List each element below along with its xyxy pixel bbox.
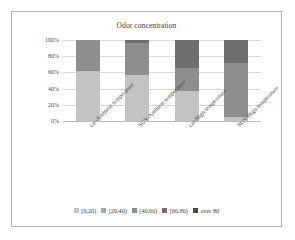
legend-label: [20,40): [109, 207, 127, 214]
y-axis-tick-label: 80%: [48, 53, 59, 59]
bar-segment[interactable]: [125, 43, 149, 75]
legend-item[interactable]: [0,20): [74, 207, 96, 214]
stacked-bar[interactable]: [125, 40, 149, 121]
x-axis-category-label: car-High temperature: [187, 124, 191, 128]
bar-segment[interactable]: [76, 40, 100, 71]
legend-label: over 80: [200, 207, 219, 214]
legend-swatch-icon: [162, 208, 167, 213]
legend-item[interactable]: over 80: [193, 207, 219, 214]
legend-label: [40,60): [139, 207, 157, 214]
legend-label: [0,20): [81, 207, 96, 214]
x-axis-category-labels: car-Ambient temperatureSUV-Ambient tempe…: [63, 122, 261, 192]
bar-series-layer: [63, 40, 261, 121]
x-axis-category-label: car-Ambient temperature: [88, 124, 92, 128]
plot-area: 0%20%40%60%80%100%: [63, 40, 261, 121]
chart-legend: [0,20)[20,40)[40,60)[60,80)over 80: [12, 207, 281, 214]
legend-swatch-icon: [74, 208, 79, 213]
legend-swatch-icon: [193, 208, 198, 213]
bar-segment[interactable]: [76, 71, 100, 121]
y-axis-tick-label: 100%: [45, 37, 59, 43]
legend-label: [60,80): [170, 207, 188, 214]
stacked-bar[interactable]: [175, 40, 199, 121]
legend-swatch-icon: [101, 208, 106, 213]
y-axis-tick-label: 20%: [48, 102, 59, 108]
bar-segment[interactable]: [175, 40, 199, 68]
chart-title: Odor concentration: [12, 21, 281, 30]
x-axis-category-label: SUV-High temperature: [236, 124, 240, 128]
y-axis-tick-label: 60%: [48, 69, 59, 75]
legend-item[interactable]: [40,60): [132, 207, 158, 214]
y-axis-tick-label: 0%: [51, 118, 59, 124]
legend-item[interactable]: [60,80): [162, 207, 188, 214]
bar-segment[interactable]: [224, 63, 248, 117]
stacked-bar[interactable]: [76, 40, 100, 121]
legend-item[interactable]: [20,40): [101, 207, 127, 214]
y-axis-tick-label: 40%: [48, 86, 59, 92]
stacked-bar[interactable]: [224, 40, 248, 121]
x-axis-category-label: SUV-Ambient temperature: [137, 124, 141, 128]
legend-swatch-icon: [132, 208, 137, 213]
chart-frame: Odor concentration 0%20%40%60%80%100% ca…: [11, 11, 282, 227]
bar-segment[interactable]: [224, 40, 248, 63]
